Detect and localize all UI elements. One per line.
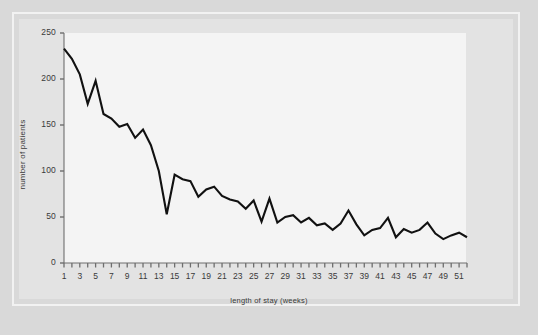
y-tick-label: 50 (26, 211, 56, 221)
y-tick-label: 250 (26, 27, 56, 37)
y-tick-label: 100 (26, 165, 56, 175)
y-axis-title: number of patients (18, 95, 27, 215)
line-chart (0, 0, 538, 335)
data-series-line (64, 49, 467, 239)
y-tick-label: 200 (26, 73, 56, 83)
x-tick-label: 51 (449, 271, 469, 281)
x-axis-title: length of stay (weeks) (0, 296, 538, 305)
y-tick-label: 150 (26, 119, 56, 129)
y-axis-ticks (60, 33, 64, 263)
y-tick-label: 0 (26, 257, 56, 267)
x-axis-ticks (64, 263, 467, 268)
figure-background: 050100150200250 135791113151719212325272… (0, 0, 538, 335)
